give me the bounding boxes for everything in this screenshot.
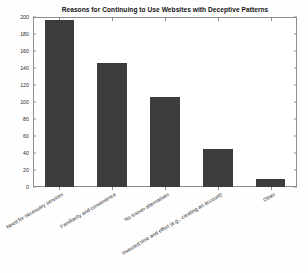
x-tick-mark <box>112 187 113 190</box>
y-tick-label: 100 <box>20 99 29 105</box>
y-tick-mark <box>33 119 36 120</box>
bar-chart-figure: Reasons for Continuing to Use Websites w… <box>0 0 308 273</box>
x-tick-mark <box>59 187 60 190</box>
y-axis: Frequency 020406080100120140160180200 <box>0 17 33 187</box>
y-tick-label: 200 <box>20 14 29 20</box>
y-tick-mark <box>33 17 36 18</box>
y-tick-mark <box>33 85 36 86</box>
bar <box>150 97 180 187</box>
x-tick-label: Other <box>261 191 275 203</box>
x-tick-mark-top <box>165 18 166 21</box>
y-tick-mark-right <box>294 153 297 154</box>
x-tick-label: No known alternatives <box>123 191 170 222</box>
y-tick-label: 40 <box>23 150 29 156</box>
y-tick-mark <box>33 51 36 52</box>
y-tick-mark <box>33 170 36 171</box>
y-tick-mark-right <box>294 51 297 52</box>
y-tick-mark <box>33 187 36 188</box>
x-tick-mark-top <box>271 18 272 21</box>
y-tick-label: 80 <box>23 116 29 122</box>
y-tick-label: 180 <box>20 31 29 37</box>
x-tick-mark-top <box>112 18 113 21</box>
y-tick-label: 140 <box>20 65 29 71</box>
y-tick-mark-right <box>294 136 297 137</box>
x-tick-mark <box>165 187 166 190</box>
bar <box>97 63 127 187</box>
y-tick-mark-right <box>294 34 297 35</box>
y-tick-mark-right <box>294 102 297 103</box>
x-tick-mark-top <box>218 18 219 21</box>
x-tick-label: Invested time and effort (e.g., creating… <box>121 191 223 256</box>
y-tick-label: 20 <box>23 167 29 173</box>
y-tick-label: 0 <box>26 184 29 190</box>
y-tick-mark <box>33 136 36 137</box>
y-tick-mark <box>33 68 36 69</box>
bar <box>203 149 233 187</box>
x-tick-mark <box>271 187 272 190</box>
y-tick-mark-right <box>294 85 297 86</box>
y-tick-label: 60 <box>23 133 29 139</box>
bar <box>256 179 286 188</box>
y-tick-mark-right <box>294 170 297 171</box>
y-tick-mark <box>33 34 36 35</box>
y-tick-mark <box>33 153 36 154</box>
y-tick-mark-right <box>294 187 297 188</box>
x-tick-label: Familiarity and convenience <box>59 191 117 229</box>
x-tick-mark <box>218 187 219 190</box>
y-tick-mark-right <box>294 17 297 18</box>
bar <box>45 20 75 187</box>
chart-title: Reasons for Continuing to Use Websites w… <box>33 6 297 13</box>
y-tick-label: 160 <box>20 48 29 54</box>
y-tick-mark-right <box>294 68 297 69</box>
y-tick-label: 120 <box>20 82 29 88</box>
x-tick-label: Need for necessary services <box>5 191 64 230</box>
y-tick-mark-right <box>294 119 297 120</box>
y-tick-mark <box>33 102 36 103</box>
